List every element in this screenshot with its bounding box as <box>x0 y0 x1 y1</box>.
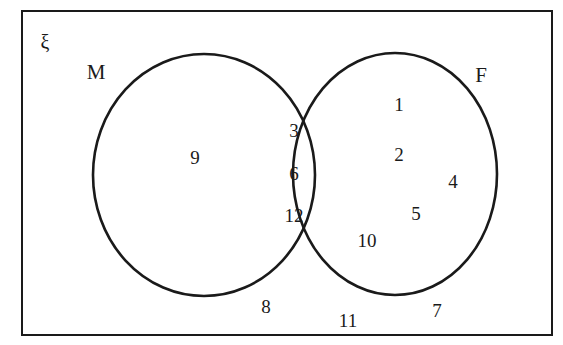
venn-element-f_only: 5 <box>411 204 421 223</box>
venn-element-outside: 8 <box>261 297 271 316</box>
venn-element-outside: 11 <box>339 311 357 330</box>
venn-element-f_only: 10 <box>358 231 377 250</box>
venn-element-f_only: 4 <box>448 172 458 191</box>
set-label-m: M <box>87 62 106 83</box>
venn-element-intersection: 6 <box>289 164 299 183</box>
venn-element-m_only: 9 <box>190 148 200 167</box>
venn-element-outside: 7 <box>432 301 442 320</box>
venn-element-f_only: 2 <box>394 145 404 164</box>
venn-diagram-canvas <box>0 0 563 345</box>
venn-diagram: ξ M F 936121245108117 <box>0 0 563 345</box>
universal-set-symbol: ξ <box>41 32 50 52</box>
set-label-f: F <box>475 65 487 86</box>
venn-element-intersection: 3 <box>289 121 299 140</box>
venn-element-intersection: 12 <box>285 206 304 225</box>
venn-element-f_only: 1 <box>394 95 404 114</box>
